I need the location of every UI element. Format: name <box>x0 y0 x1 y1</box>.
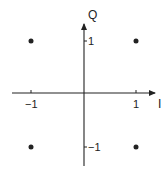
y-tick-label-minus1: −1 <box>88 141 101 153</box>
constellation-point <box>29 145 34 150</box>
y-tick-label-plus1: 1 <box>88 35 94 47</box>
i-axis-label: I <box>158 97 161 111</box>
q-axis-label: Q <box>88 8 97 22</box>
x-tick-label-minus1: −1 <box>25 98 38 110</box>
constellation-diagram: −1 1 1 −1 Q I <box>0 0 167 171</box>
constellation-point <box>29 39 34 44</box>
constellation-point <box>134 145 139 150</box>
constellation-point <box>134 39 139 44</box>
x-tick-label-plus1: 1 <box>133 98 139 110</box>
